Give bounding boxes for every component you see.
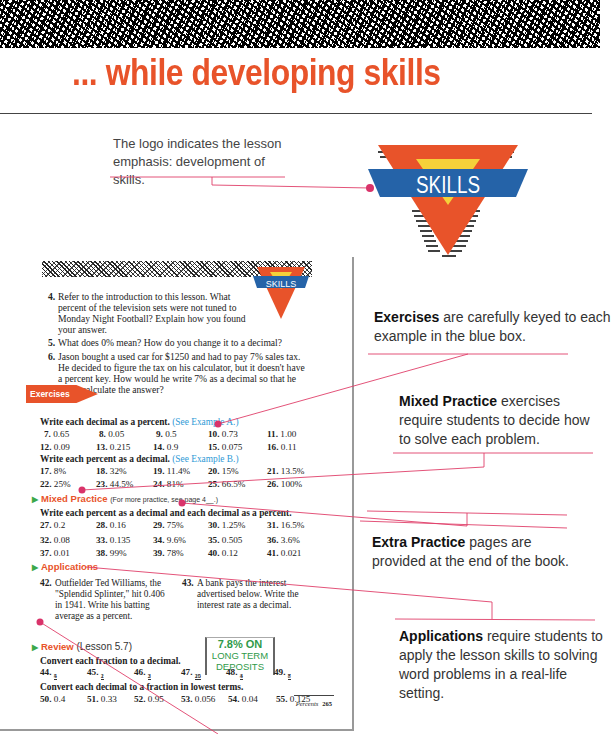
callout-exercises: Exercises are carefully keyed to each ex… (374, 308, 614, 346)
exercises-instruction-2: Write each percent as a decimal. (See Ex… (40, 454, 239, 464)
example-a-link: (See Example A.) (172, 417, 238, 427)
page-footer: Percents265 (296, 700, 332, 707)
review-instruction-2: Convert each decimal to a fraction in lo… (40, 682, 243, 692)
callout-mixed-practice-bold: Mixed Practice (399, 393, 497, 409)
question-4: 4.Refer to the introduction to this less… (48, 291, 258, 335)
callout-mixed-practice: Mixed Practice exercises require student… (399, 392, 599, 449)
footer-rule (294, 695, 334, 696)
bank-sign: 7.8% ON LONG TERM DEPOSITS (205, 637, 275, 675)
triangle-bullet-icon: ▶ (32, 495, 38, 504)
callout-extra-practice: Extra Practice pages are provided at the… (372, 533, 572, 571)
question-5: 5.What does 0% mean? How do you change i… (48, 337, 308, 348)
page-skills-logo-icon: SKILLS (253, 263, 309, 321)
callout-exercises-bold: Exercises (374, 309, 439, 325)
callout-applications-bold: Applications (399, 628, 483, 644)
svg-text:SKILLS: SKILLS (266, 279, 297, 289)
callout-applications: Applications require students to apply t… (399, 627, 613, 703)
question-43: 43.A bank pays the interest advertised b… (182, 578, 322, 611)
page-title: ... while developing skills (72, 52, 441, 94)
header-divider (0, 113, 592, 114)
skills-logo-icon: SKILLS (368, 135, 528, 265)
review-instruction-1: Convert each fraction to a decimal. (40, 656, 181, 666)
skills-logo-text: SKILLS (416, 171, 480, 198)
textbook-page: SKILLS 4.Refer to the introduction to th… (0, 257, 354, 731)
question-6: 6.Jason bought a used car for $1250 and … (48, 351, 308, 395)
exercises-instruction-1: Write each decimal as a percent. (See Ex… (40, 417, 239, 427)
applications-heading: ▶Applications (32, 561, 98, 572)
callout-logo: The logo indicates the lesson emphasis: … (113, 135, 283, 189)
mixed-practice-heading: ▶Mixed Practice (For more practice, see … (32, 493, 218, 504)
callout-extra-practice-bold: Extra Practice (372, 534, 465, 550)
triangle-bullet-icon: ▶ (32, 563, 38, 572)
example-b-link: (See Example B.) (172, 454, 238, 464)
question-42: 42.Outfielder Ted Williams, the "Splendi… (40, 578, 180, 622)
triangle-bullet-icon: ▶ (32, 643, 38, 652)
speckled-header-band (0, 0, 600, 48)
mixed-practice-instruction: Write each percent as a decimal and each… (40, 508, 292, 518)
review-heading: ▶Review (Lesson 5.7) (32, 641, 132, 652)
